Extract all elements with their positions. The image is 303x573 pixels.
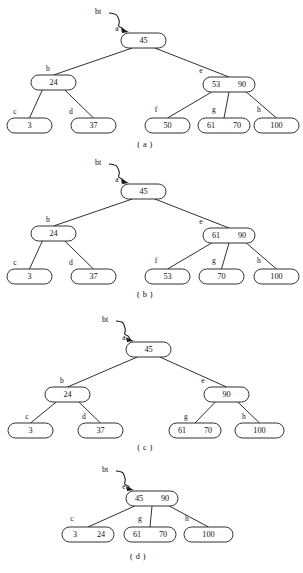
node-value: 70 (159, 530, 167, 539)
tree-edge (88, 506, 135, 527)
tree-edge (150, 506, 152, 527)
node-value: 100 (202, 530, 214, 539)
node-value: 3 (73, 530, 77, 539)
node-value: 24 (97, 530, 105, 539)
panel-caption-d: ( d ) (130, 552, 146, 561)
node-label-g: g (138, 514, 142, 523)
node-shape (126, 491, 178, 506)
node-value: 61 (133, 530, 141, 539)
bt-pointer-label: bt (102, 465, 109, 474)
node-value: 45 (135, 494, 143, 503)
node-label-h: h (185, 514, 189, 523)
node-value: 90 (161, 494, 169, 503)
node-shape (124, 527, 176, 542)
tree-node-c: 324c (62, 514, 114, 542)
btree-figure: 45a24b5390e3c37d50f6170g100hbt( a )45a24… (0, 0, 303, 573)
node-shape (62, 527, 114, 542)
tree-node-g: 6170g (124, 514, 176, 542)
tree-node-e: 4590e (122, 482, 178, 506)
bt-arrowhead-icon (126, 486, 134, 491)
node-label-c: c (70, 514, 74, 523)
panel-d: 4590e324c6170g100hbt( d ) (0, 0, 303, 573)
